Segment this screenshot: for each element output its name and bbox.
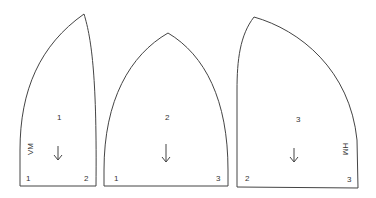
piece-1-corner-right: 2 [84, 175, 88, 183]
piece-1-number: 1 [57, 114, 61, 122]
piece-3-corner-right: 3 [347, 176, 351, 184]
pattern-piece-1 [20, 14, 96, 186]
piece-2-corner-left: 1 [114, 175, 118, 183]
piece-3-corner-left: 2 [245, 175, 249, 183]
piece-1-side-label: VM [27, 143, 35, 155]
piece-2-number: 2 [165, 114, 169, 122]
piece-3-number: 3 [296, 116, 300, 124]
piece-3-outline [237, 17, 358, 188]
piece-1-corner-left: 1 [26, 175, 30, 183]
piece-3-side-label: HM [341, 143, 349, 155]
piece-2-corner-right: 3 [216, 175, 220, 183]
pattern-piece-2 [104, 33, 228, 186]
piece-2-outline [104, 33, 228, 186]
pattern-piece-3 [237, 17, 358, 188]
pattern-pieces-diagram [0, 0, 376, 198]
